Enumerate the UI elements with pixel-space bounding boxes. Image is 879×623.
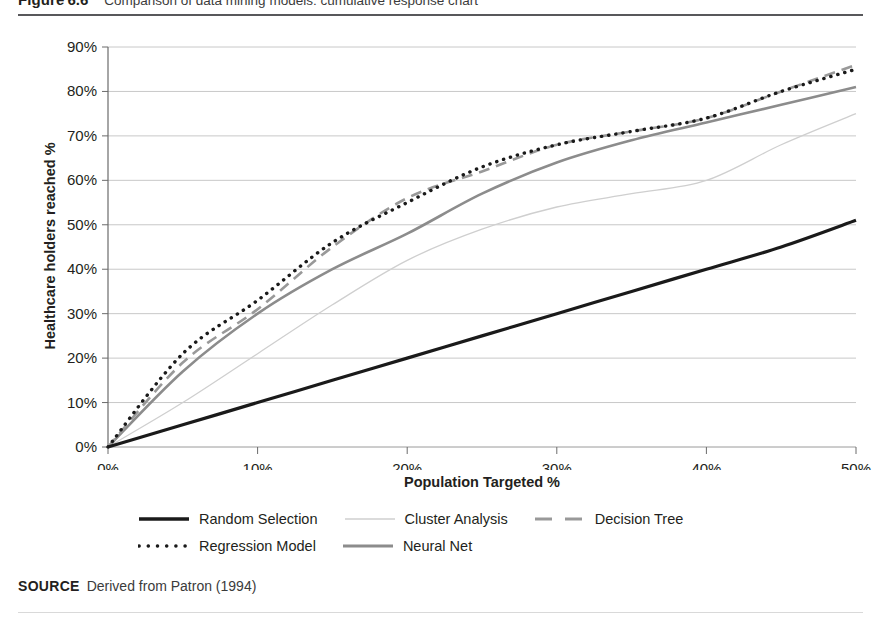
y-axis-title: Healthcare holders reached % bbox=[42, 46, 58, 446]
legend-label: Regression Model bbox=[199, 538, 316, 554]
legend-swatch bbox=[138, 539, 190, 553]
x-tick-label: 20% bbox=[392, 460, 422, 470]
legend-item[interactable]: Cluster Analysis bbox=[344, 511, 508, 527]
x-tick-label: 40% bbox=[691, 460, 721, 470]
y-tick-label: 40% bbox=[67, 260, 97, 277]
y-tick-label: 70% bbox=[67, 127, 97, 144]
legend-item[interactable]: Decision Tree bbox=[534, 511, 684, 527]
legend-swatch bbox=[138, 512, 190, 526]
bottom-divider bbox=[18, 612, 863, 613]
plot-area: 0%10%20%30%40%50%60%70%80%90%0%10%20%30%… bbox=[0, 0, 879, 470]
legend-item[interactable]: Regression Model bbox=[138, 538, 316, 554]
series-line bbox=[108, 220, 856, 447]
y-tick-label: 20% bbox=[67, 349, 97, 366]
legend-swatch bbox=[342, 539, 394, 553]
legend-label: Neural Net bbox=[403, 538, 472, 554]
legend-item[interactable]: Random Selection bbox=[138, 511, 318, 527]
figure-container: Figure6.6Comparison of data mining model… bbox=[0, 0, 879, 623]
y-tick-label: 50% bbox=[67, 216, 97, 233]
legend-label: Random Selection bbox=[199, 511, 318, 527]
legend-label: Cluster Analysis bbox=[405, 511, 508, 527]
source-keyword: SOURCE bbox=[18, 578, 80, 594]
legend-swatch bbox=[344, 512, 396, 526]
series-line bbox=[108, 87, 856, 447]
legend-swatch bbox=[534, 512, 586, 526]
x-tick-label: 10% bbox=[243, 460, 273, 470]
source-text: Derived from Patron (1994) bbox=[87, 578, 257, 594]
chart-legend: Random SelectionCluster AnalysisDecision… bbox=[108, 505, 868, 559]
y-tick-label: 30% bbox=[67, 305, 97, 322]
legend-row: Random SelectionCluster AnalysisDecision… bbox=[108, 505, 868, 532]
y-tick-label: 90% bbox=[67, 38, 97, 55]
x-tick-label: 0% bbox=[97, 460, 119, 470]
y-tick-label: 10% bbox=[67, 394, 97, 411]
legend-label: Decision Tree bbox=[595, 511, 684, 527]
source-note: SOURCEDerived from Patron (1994) bbox=[18, 578, 256, 594]
legend-item[interactable]: Neural Net bbox=[342, 538, 472, 554]
line-chart: 0%10%20%30%40%50%60%70%80%90%0%10%20%30%… bbox=[0, 0, 879, 470]
x-tick-label: 30% bbox=[542, 460, 572, 470]
y-tick-label: 60% bbox=[67, 171, 97, 188]
x-axis-title: Population Targeted % bbox=[108, 474, 856, 490]
series-line bbox=[108, 65, 856, 447]
y-tick-label: 0% bbox=[75, 438, 97, 455]
x-tick-label: 50% bbox=[841, 460, 871, 470]
series-line bbox=[108, 114, 856, 447]
y-tick-label: 80% bbox=[67, 82, 97, 99]
legend-row: Regression ModelNeural Net bbox=[108, 532, 868, 559]
